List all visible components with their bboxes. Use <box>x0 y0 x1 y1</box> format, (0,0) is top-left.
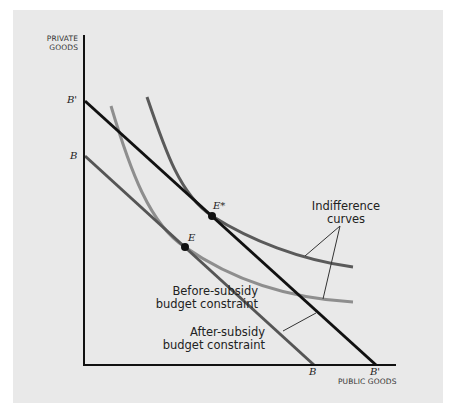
point-e <box>181 243 189 251</box>
indifference-curves-label: Indifference curves <box>308 200 384 226</box>
point-e-star-label: E* <box>213 200 225 211</box>
y-axis-title: PRIVATE GOODS <box>40 34 78 52</box>
after-label-line2: budget constraint <box>143 339 265 352</box>
before-label-line2: budget constraint <box>140 298 258 311</box>
after-subsidy-leader <box>283 313 316 331</box>
y-axis-title-line1: PRIVATE <box>40 34 78 43</box>
x-axis-title: PUBLIC GOODS <box>338 377 397 386</box>
y-intercept-before-label: B <box>70 150 77 161</box>
diagram-canvas <box>0 0 455 415</box>
x-intercept-before-label: B <box>309 366 316 377</box>
y-intercept-after-label: B' <box>67 94 77 105</box>
y-axis-title-line2: GOODS <box>40 43 78 52</box>
indifference-leader-high <box>305 226 340 256</box>
x-intercept-after-label: B' <box>370 366 380 377</box>
point-e-label: E <box>188 232 195 243</box>
point-e-star <box>208 212 216 220</box>
before-subsidy-label: Before-subsidy budget constraint <box>140 285 258 311</box>
indifference-label-line2: curves <box>308 213 384 226</box>
after-subsidy-label: After-subsidy budget constraint <box>143 326 265 352</box>
